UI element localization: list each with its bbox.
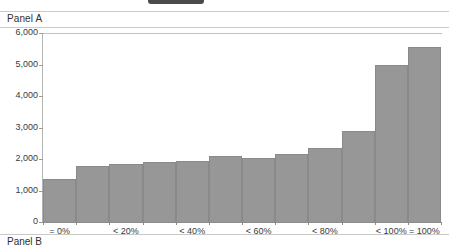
panel-a-chart: 6,0005,0004,0003,0002,0001,0000 = 0%< 20…	[0, 28, 449, 233]
y-axis-tick-label: 1,000	[15, 185, 38, 195]
y-axis-tick: 4,000	[0, 96, 46, 97]
x-axis-tick-mark	[308, 222, 309, 225]
panel-a-title: Panel A	[7, 13, 42, 24]
bar	[242, 158, 275, 222]
bar	[143, 162, 176, 222]
x-axis-ticks: = 0%< 20%< 40%< 60%< 80%< 100%= 100%	[43, 225, 441, 239]
cropped-pill-button[interactable]	[148, 0, 204, 4]
x-axis-tick-mark	[143, 222, 144, 225]
x-axis-tick-mark	[176, 222, 177, 225]
bar	[408, 47, 441, 222]
x-axis-tick-mark	[242, 222, 243, 225]
bar	[76, 166, 109, 222]
bar-series	[43, 33, 441, 222]
panel-b-divider	[0, 234, 449, 235]
bar	[176, 161, 209, 222]
y-axis-tick: 3,000	[0, 128, 46, 129]
y-axis-tick-label: 2,000	[15, 153, 38, 163]
y-axis-tick: 2,000	[0, 159, 46, 160]
x-axis-tick-mark	[43, 222, 44, 225]
panel-b-title: Panel B	[7, 236, 42, 247]
y-axis-tick: 0	[0, 222, 46, 223]
y-axis-tick-label: 6,000	[15, 27, 38, 37]
bar	[342, 131, 375, 222]
x-axis-tick-mark	[342, 222, 343, 225]
x-axis-tick-mark	[441, 222, 442, 225]
bar	[375, 65, 408, 223]
y-axis-tick: 6,000	[0, 33, 46, 34]
x-axis-tick-mark	[109, 222, 110, 225]
bar	[209, 156, 242, 222]
x-axis-tick-mark	[408, 222, 409, 225]
bar	[43, 179, 76, 222]
x-axis-tick-mark	[275, 222, 276, 225]
y-axis-tick-label: 0	[33, 216, 38, 226]
y-axis-tick: 5,000	[0, 65, 46, 66]
bar	[275, 154, 308, 222]
y-axis-tick-label: 4,000	[15, 90, 38, 100]
panel-a-header: Panel A	[0, 12, 449, 27]
y-axis-tick-label: 5,000	[15, 59, 38, 69]
bar	[109, 164, 142, 222]
x-axis-tick-mark	[375, 222, 376, 225]
y-axis-tick-label: 3,000	[15, 122, 38, 132]
x-axis-tick-mark	[209, 222, 210, 225]
bar	[308, 148, 341, 222]
y-axis-tick: 1,000	[0, 191, 46, 192]
x-axis-tick-mark	[76, 222, 77, 225]
